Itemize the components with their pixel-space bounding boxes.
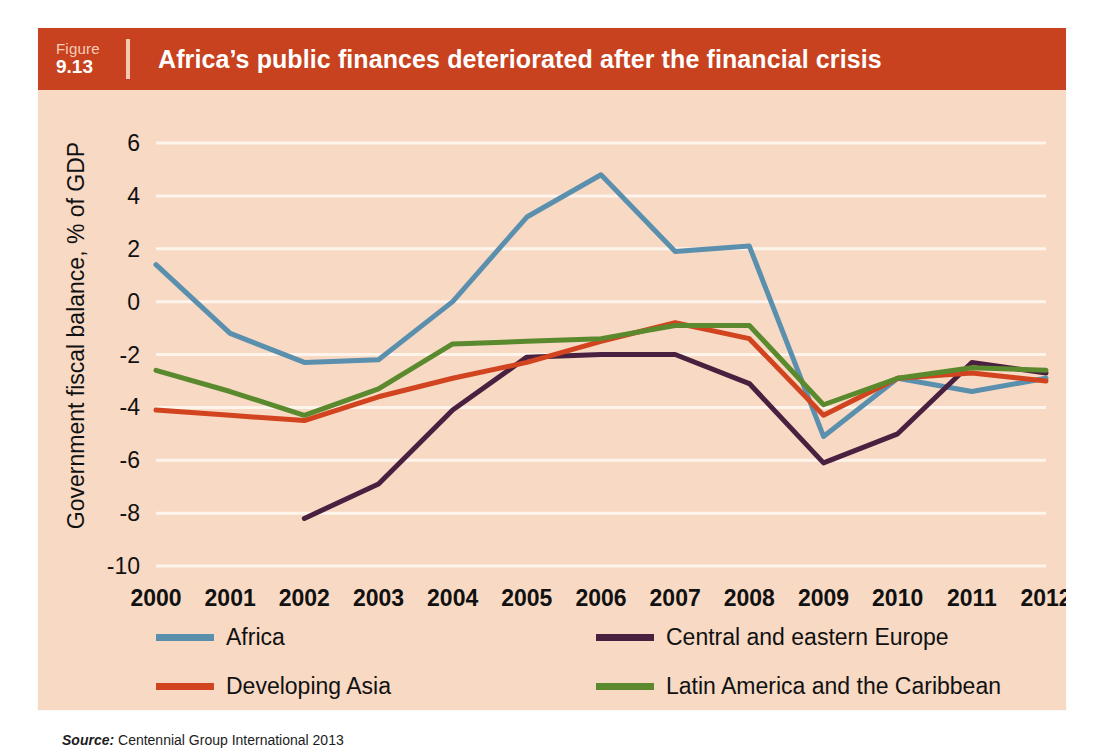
series-lines	[156, 175, 1046, 519]
figure-number-block: Figure 9.13	[56, 41, 126, 77]
legend-swatch-africa	[156, 634, 214, 641]
legend-swatch-developing-asia	[156, 683, 214, 690]
figure-header-banner: Figure 9.13 Africa’s public finances det…	[38, 28, 1066, 90]
x-tick-label: 2007	[650, 585, 701, 611]
figure-number: 9.13	[56, 57, 126, 77]
x-tick-label: 2006	[575, 585, 626, 611]
series-line-latin-america-and-the-caribbean	[156, 325, 1046, 415]
x-tick-label: 2000	[130, 585, 181, 611]
legend-entry-africa[interactable]: Africa	[156, 624, 596, 651]
header-divider	[126, 39, 130, 79]
y-tick-label: -10	[107, 553, 140, 579]
y-tick-labels: 6420-2-4-6-8-10	[107, 130, 140, 579]
figure-label-word: Figure	[56, 41, 126, 57]
x-tick-labels: 2000200120022003200420052006200720082009…	[130, 585, 1066, 611]
line-chart-svg: 6420-2-4-6-8-10 200020012002200320042005…	[38, 90, 1066, 710]
x-tick-label: 2008	[724, 585, 775, 611]
y-tick-label: -4	[120, 394, 141, 420]
series-line-africa	[156, 175, 1046, 437]
x-tick-label: 2001	[205, 585, 256, 611]
x-tick-label: 2005	[501, 585, 552, 611]
figure-panel: Figure 9.13 Africa’s public finances det…	[38, 28, 1066, 710]
legend-label-central-and-eastern-europe: Central and eastern Europe	[666, 624, 949, 651]
y-tick-label: 0	[127, 289, 140, 315]
legend-label-latin-america-and-the-caribbean: Latin America and the Caribbean	[666, 673, 1001, 700]
legend-swatch-latin-america-and-the-caribbean	[596, 683, 654, 690]
legend-entry-latin-america-and-the-caribbean[interactable]: Latin America and the Caribbean	[596, 673, 1036, 700]
x-tick-label: 2010	[872, 585, 923, 611]
legend-entry-central-and-eastern-europe[interactable]: Central and eastern Europe	[596, 624, 1036, 651]
chart-area: Government fiscal balance, % of GDP 6420…	[38, 90, 1066, 710]
x-tick-label: 2003	[353, 585, 404, 611]
y-tick-label: -6	[120, 447, 140, 473]
y-tick-label: -8	[120, 500, 140, 526]
y-tick-label: 2	[127, 236, 140, 262]
y-tick-label: -2	[120, 342, 140, 368]
figure-title: Africa’s public finances deteriorated af…	[158, 45, 882, 74]
legend-label-developing-asia: Developing Asia	[226, 673, 391, 700]
x-tick-label: 2004	[427, 585, 478, 611]
legend-swatch-central-and-eastern-europe	[596, 634, 654, 641]
source-note: Source: Centennial Group International 2…	[62, 732, 344, 748]
y-tick-label: 6	[127, 130, 140, 156]
x-tick-label: 2002	[279, 585, 330, 611]
series-line-central-and-eastern-europe	[304, 355, 1046, 519]
legend-label-africa: Africa	[226, 624, 285, 651]
x-tick-label: 2012	[1020, 585, 1066, 611]
x-tick-label: 2011	[947, 585, 997, 611]
source-prefix: Source:	[62, 732, 114, 748]
source-text: Centennial Group International 2013	[118, 732, 344, 748]
legend-entry-developing-asia[interactable]: Developing Asia	[156, 673, 596, 700]
chart-legend: AfricaCentral and eastern EuropeDevelopi…	[156, 624, 1036, 700]
y-tick-label: 4	[127, 183, 140, 209]
x-tick-label: 2009	[798, 585, 849, 611]
